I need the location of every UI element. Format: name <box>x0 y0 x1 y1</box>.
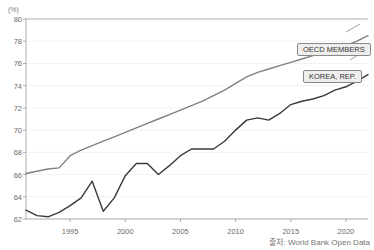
legend-label-oecd[interactable]: OECD MEMBERS <box>297 43 371 56</box>
line-chart: (%) 80 78 76 74 72 70 68 66 64 62 1995 2… <box>0 0 374 250</box>
gridlines <box>26 41 368 219</box>
leader-line-oecd <box>346 24 360 32</box>
plot-area <box>0 0 374 250</box>
x-tick-marks <box>70 219 346 222</box>
source-note: 출처: World Bank Open Data <box>269 236 370 247</box>
series-line-korea <box>26 75 368 217</box>
legend-label-korea[interactable]: KOREA, REP. <box>303 70 362 83</box>
series-line-oecd <box>26 36 368 174</box>
y-tick-marks <box>23 19 26 219</box>
